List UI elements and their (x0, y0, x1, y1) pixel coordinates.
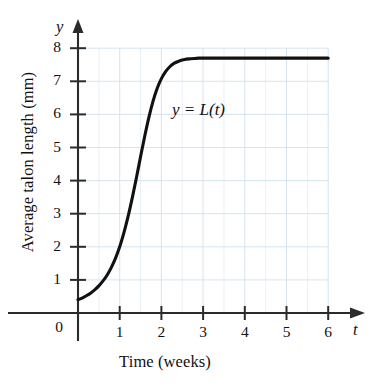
x-tick-label: 2 (150, 323, 172, 341)
curve-equation-label: y = L(t) (172, 100, 225, 120)
x-tick-label: 6 (317, 323, 339, 341)
y-tick-label: 8 (46, 38, 68, 56)
grid-lines (78, 48, 328, 313)
x-tick-label: 3 (192, 323, 214, 341)
y-axis-title: Average talon length (mm) (18, 42, 38, 282)
y-axis-title-wrapper: Average talon length (mm) (0, 0, 40, 330)
y-tick-label: 2 (46, 237, 68, 255)
x-tick-label: 4 (234, 323, 256, 341)
y-tick-label: 7 (46, 71, 68, 89)
y-tick-label: 1 (46, 270, 68, 288)
x-axis-title: Time (weeks) (0, 352, 330, 372)
x-tick-label: 1 (109, 323, 131, 341)
y-tick-label: 4 (46, 171, 68, 189)
y-tick-label: 3 (46, 204, 68, 222)
x-tick-label: 5 (276, 323, 298, 341)
y-tick-label: 5 (46, 138, 68, 156)
x-axis-arrowhead (350, 308, 365, 319)
origin-tick-label: 0 (48, 318, 70, 336)
y-axis-arrowhead (73, 19, 84, 33)
y-axis-variable-label: y (56, 17, 63, 37)
y-tick-label: 6 (46, 104, 68, 122)
x-axis-variable-label: t (353, 320, 358, 340)
axis-ticks (70, 48, 328, 320)
figure-logistic-talon-growth: Average talon length (mm) Time (weeks) y… (0, 0, 386, 387)
